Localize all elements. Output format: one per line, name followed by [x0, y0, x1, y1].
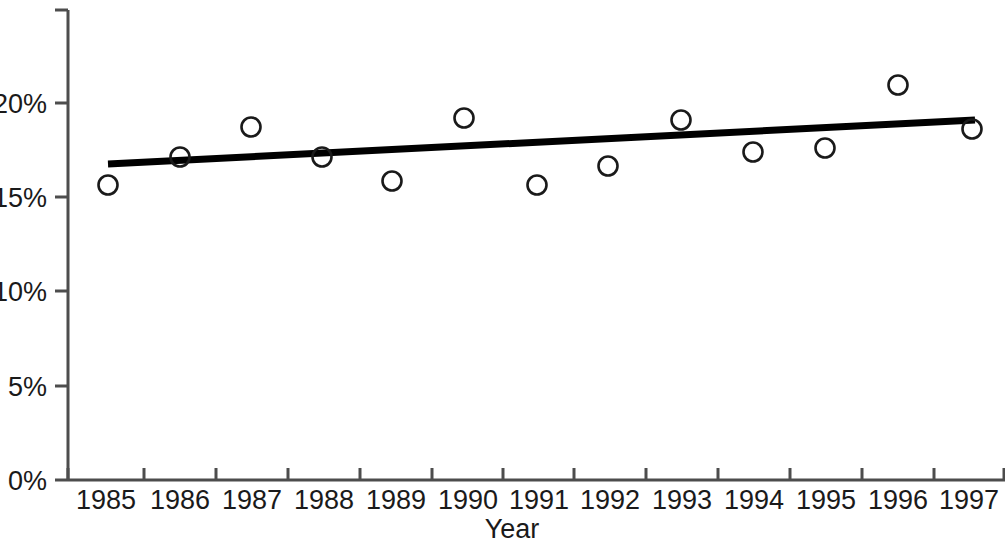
data-point-1995 [816, 139, 835, 158]
data-point-markers [99, 76, 982, 195]
scatter-plot-svg: 0% 5% 10% 15% 20% 1985 1986 [0, 0, 1005, 545]
x-tick-label-1988: 1988 [294, 485, 354, 515]
x-tick-label-1995: 1995 [796, 485, 856, 515]
data-point-1996 [889, 76, 908, 95]
x-tick-label-1985: 1985 [76, 485, 136, 515]
x-axis-ticks [68, 468, 1004, 480]
x-axis-title: Year [485, 514, 540, 544]
x-tick-label-1992: 1992 [580, 485, 640, 515]
data-point-1991 [528, 176, 547, 195]
x-tick-label-1993: 1993 [652, 485, 712, 515]
x-tick-label-1997: 1997 [939, 485, 999, 515]
y-axis-ticks [55, 103, 68, 480]
x-tick-label-1996: 1996 [868, 485, 928, 515]
y-tick-label-15: 15% [0, 183, 47, 213]
x-tick-label-1990: 1990 [438, 485, 498, 515]
x-tick-label-1989: 1989 [366, 485, 426, 515]
y-tick-label-0: 0% [8, 466, 47, 496]
data-point-1994 [744, 143, 763, 162]
y-tick-label-5: 5% [8, 372, 47, 402]
trend-line [108, 120, 975, 164]
x-tick-label-1991: 1991 [509, 485, 569, 515]
x-tick-label-1994: 1994 [724, 485, 784, 515]
y-axis-tick-labels: 0% 5% 10% 15% 20% [0, 89, 47, 496]
data-point-1989 [383, 172, 402, 191]
data-point-1992 [599, 157, 618, 176]
data-point-1990 [455, 109, 474, 128]
data-point-1993 [672, 111, 691, 130]
y-tick-label-10: 10% [0, 277, 47, 307]
y-tick-label-20: 20% [0, 89, 47, 119]
x-tick-label-1986: 1986 [150, 485, 210, 515]
x-tick-label-1987: 1987 [222, 485, 282, 515]
data-point-1987 [242, 118, 261, 137]
chart-container: 0% 5% 10% 15% 20% 1985 1986 [0, 0, 1005, 545]
x-axis-tick-labels: 1985 1986 1987 1988 1989 1990 1991 1992 … [76, 485, 999, 515]
data-point-1985 [99, 176, 118, 195]
